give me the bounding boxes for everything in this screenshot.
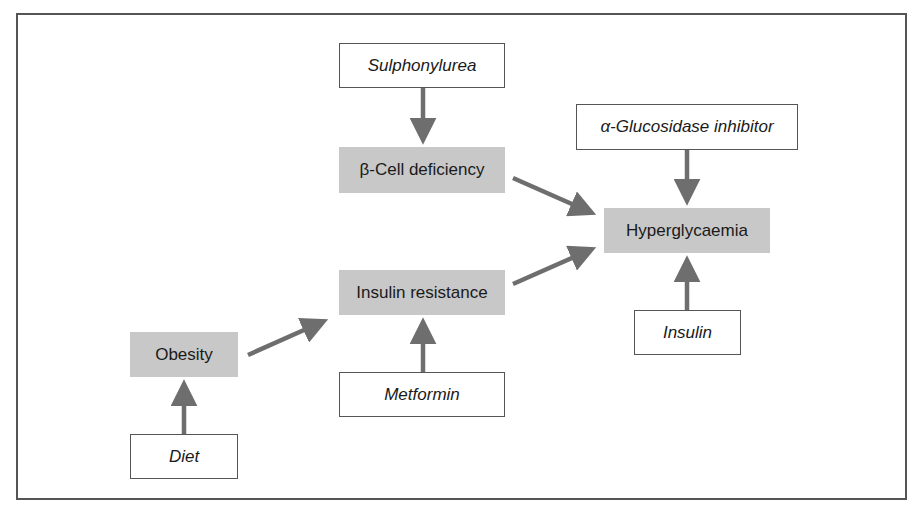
node-diet: Diet [130, 434, 238, 479]
node-label: Metformin [384, 385, 460, 405]
node-insulin-resistance: Insulin resistance [339, 270, 505, 315]
node-sulphonylurea: Sulphonylurea [339, 43, 505, 88]
node-label: Diet [169, 447, 199, 467]
node-label: Insulin [663, 323, 712, 343]
node-hyperglycaemia: Hyperglycaemia [604, 208, 770, 253]
node-metformin: Metformin [339, 372, 505, 417]
node-label: Insulin resistance [356, 283, 487, 303]
node-label: Obesity [155, 345, 213, 365]
node-beta-cell-deficiency: β-Cell deficiency [339, 147, 505, 193]
node-obesity: Obesity [130, 332, 238, 377]
node-label: α-Glucosidase inhibitor [600, 117, 773, 137]
node-label: β-Cell deficiency [359, 160, 484, 180]
node-insulin: Insulin [634, 310, 741, 355]
node-alpha-glucosidase-inhibitor: α-Glucosidase inhibitor [576, 104, 798, 150]
node-label: Sulphonylurea [368, 56, 477, 76]
node-label: Hyperglycaemia [626, 221, 748, 241]
